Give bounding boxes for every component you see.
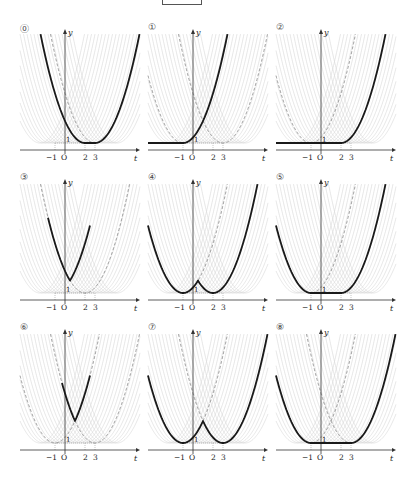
parabola-family (148, 34, 268, 143)
svg-text:O: O (317, 453, 323, 462)
bold-curve (148, 334, 268, 443)
svg-text:O: O (317, 303, 323, 312)
graph-panel-6: ⑥yt1−1O23 (18, 322, 142, 472)
graph-panel-7: ⑦yt1−1O23 (146, 322, 270, 472)
svg-text:y: y (67, 328, 73, 337)
dashed-parabola (148, 334, 228, 443)
parabola-family (20, 334, 140, 443)
svg-text:2: 2 (83, 453, 88, 462)
dashed-parabola (20, 334, 100, 443)
svg-text:1: 1 (194, 286, 198, 294)
svg-text:1: 1 (66, 436, 70, 444)
svg-text:t: t (390, 454, 394, 463)
graph-panel-8: ⑧yt1−1O23 (274, 322, 398, 472)
svg-text:3: 3 (349, 153, 354, 162)
svg-text:y: y (323, 28, 329, 37)
graph-panel-1: ①yt1−1O23 (146, 22, 270, 172)
dashed-parabola (276, 334, 356, 443)
svg-text:y: y (195, 178, 201, 187)
parabola-family (20, 34, 140, 143)
svg-text:−1: −1 (174, 153, 185, 162)
parabola-family (276, 34, 396, 143)
svg-text:O: O (61, 303, 67, 312)
svg-text:−1: −1 (302, 453, 313, 462)
bold-curve (148, 34, 228, 143)
svg-text:O: O (189, 303, 195, 312)
bold-curve (41, 34, 140, 143)
graph-panel-0: ⓪yt1−1O23 (18, 22, 142, 172)
svg-text:y: y (67, 28, 73, 37)
svg-text:y: y (195, 28, 201, 37)
svg-text:y: y (195, 328, 201, 337)
svg-text:2: 2 (339, 453, 344, 462)
svg-text:t: t (262, 304, 266, 313)
svg-text:y: y (323, 328, 329, 337)
svg-text:O: O (317, 153, 323, 162)
dashed-parabola (148, 34, 228, 143)
svg-text:−1: −1 (46, 153, 57, 162)
dashed-parabola (276, 34, 356, 143)
graph-panel-3: ③yt1−1O23 (18, 172, 142, 322)
parabola-family (20, 184, 140, 293)
svg-text:3: 3 (349, 303, 354, 312)
svg-text:1: 1 (66, 286, 70, 294)
svg-text:t: t (134, 154, 138, 163)
svg-text:t: t (390, 304, 394, 313)
svg-text:3: 3 (93, 303, 98, 312)
svg-text:2: 2 (211, 453, 216, 462)
svg-text:−1: −1 (302, 153, 313, 162)
svg-text:O: O (61, 153, 67, 162)
svg-text:3: 3 (93, 153, 98, 162)
svg-text:3: 3 (221, 303, 226, 312)
graph-panel-4: ④yt1−1O23 (146, 172, 270, 322)
svg-text:−1: −1 (46, 453, 57, 462)
svg-text:1: 1 (194, 436, 198, 444)
svg-text:2: 2 (211, 153, 216, 162)
svg-text:t: t (262, 454, 266, 463)
svg-text:−1: −1 (302, 303, 313, 312)
dashed-parabola (148, 184, 228, 293)
svg-text:t: t (134, 304, 138, 313)
svg-text:3: 3 (349, 453, 354, 462)
svg-text:2: 2 (83, 153, 88, 162)
svg-text:−1: −1 (174, 453, 185, 462)
svg-text:1: 1 (194, 136, 198, 144)
svg-text:2: 2 (211, 303, 216, 312)
svg-text:−1: −1 (46, 303, 57, 312)
graph-panel-5: ⑤yt1−1O23 (274, 172, 398, 322)
answer-box (162, 0, 202, 5)
svg-text:t: t (134, 454, 138, 463)
svg-text:1: 1 (66, 136, 70, 144)
graph-panel-2: ②yt1−1O23 (274, 22, 398, 172)
svg-text:3: 3 (93, 453, 98, 462)
svg-text:2: 2 (339, 153, 344, 162)
svg-text:O: O (189, 153, 195, 162)
svg-text:t: t (390, 154, 394, 163)
svg-text:y: y (323, 178, 329, 187)
svg-text:2: 2 (83, 303, 88, 312)
svg-text:O: O (189, 453, 195, 462)
svg-text:t: t (262, 154, 266, 163)
bold-curve (276, 334, 396, 443)
svg-text:2: 2 (339, 303, 344, 312)
svg-text:O: O (61, 453, 67, 462)
svg-text:3: 3 (221, 153, 226, 162)
svg-text:y: y (67, 178, 73, 187)
dashed-parabola (276, 184, 356, 293)
svg-text:3: 3 (221, 453, 226, 462)
svg-text:−1: −1 (174, 303, 185, 312)
